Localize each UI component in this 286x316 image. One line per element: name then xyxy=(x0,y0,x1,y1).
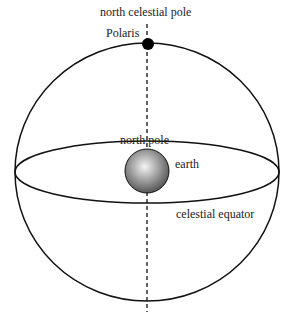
equator-label: celestial equator xyxy=(176,208,254,220)
earth-label: earth xyxy=(175,158,199,170)
celestial-sphere-diagram xyxy=(0,0,286,316)
polaris-star xyxy=(142,38,154,50)
ncp-label: north celestial pole xyxy=(100,6,191,18)
north-pole-label: north pole xyxy=(120,134,169,146)
earth xyxy=(125,149,169,193)
polaris-label: Polaris xyxy=(106,27,139,39)
